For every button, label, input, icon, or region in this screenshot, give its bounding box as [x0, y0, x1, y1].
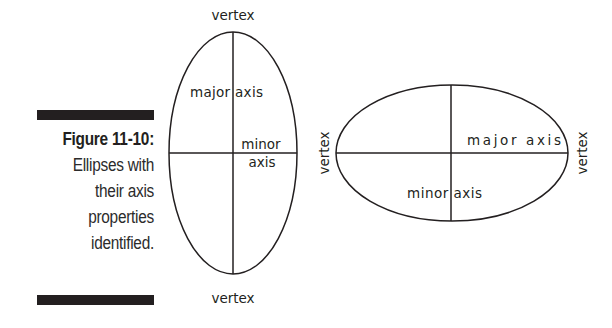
horizontal-ellipse-minor-axis-label: minor axis [407, 185, 482, 201]
vertical-ellipse-major-axis-label: major axis [190, 84, 263, 100]
vertical-ellipse-bottom-vertex-label: vertex [211, 290, 254, 306]
horizontal-ellipse-left-vertex-label: vertex [316, 131, 332, 174]
vertical-ellipse-top-vertex-label: vertex [211, 7, 254, 23]
horizontal-ellipse-right-vertex-label: vertex [574, 131, 590, 174]
vertical-ellipse-minor-axis-label-line1: minor [241, 136, 281, 152]
horizontal-ellipse-group: vertex vertex major axis minor axis [316, 85, 590, 221]
vertical-ellipse-group: vertex vertex major axis minor axis [169, 7, 297, 306]
ellipse-diagram: vertex vertex major axis minor axis vert… [0, 0, 612, 328]
vertical-ellipse-minor-axis-label-line2: axis [248, 154, 275, 170]
horizontal-ellipse-major-axis-label: major axis [467, 132, 561, 148]
